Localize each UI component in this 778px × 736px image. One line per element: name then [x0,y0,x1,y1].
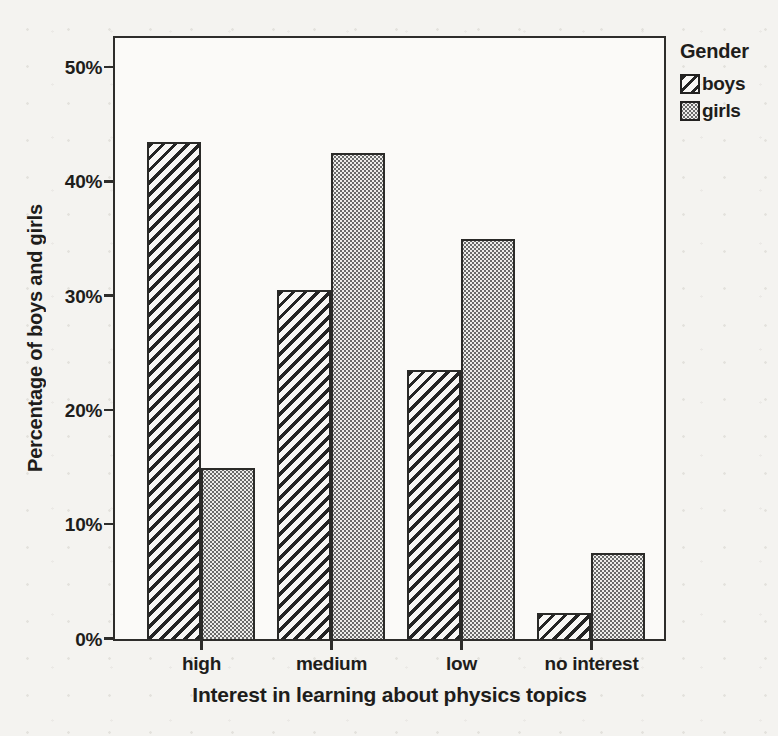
y-tick-mark-20% [104,409,113,412]
y-tick-label-10%: 10% [42,514,102,536]
y-tick-label-0%: 0% [42,629,102,651]
y-tick-label-50%: 50% [42,57,102,79]
y-tick-mark-40% [104,180,113,183]
bar-girls-medium [331,153,385,639]
x-tick-mark-high [200,641,203,650]
bar-girls-low [461,239,515,639]
y-tick-label-40%: 40% [42,171,102,193]
x-tick-label-low: low [392,653,532,675]
legend: Gender boysgirls [680,40,776,127]
legend-item-boys: boys [680,73,776,95]
y-tick-mark-10% [104,523,113,526]
x-tick-label-high: high [132,653,272,675]
x-tick-mark-medium [330,641,333,650]
x-tick-label-medium: medium [262,653,402,675]
diagonal-hatch-swatch-icon [680,74,700,94]
x-tick-mark-no-interest [590,641,593,650]
y-tick-mark-30% [104,294,113,297]
bar-boys-medium [277,290,331,639]
y-tick-mark-50% [104,66,113,69]
bar-boys-high [147,142,201,639]
y-tick-label-20%: 20% [42,400,102,422]
dot-grid-swatch-icon [680,101,700,121]
bar-boys-low [407,370,461,639]
y-axis-title: Percentage of boys and girls [24,36,50,641]
y-tick-mark-0% [104,637,113,640]
x-tick-mark-low [460,641,463,650]
bar-girls-high [201,468,255,639]
y-tick-label-30%: 30% [42,286,102,308]
legend-title: Gender [680,40,776,63]
legend-item-girls: girls [680,100,776,122]
legend-items: boysgirls [680,73,776,122]
legend-label-boys: boys [702,73,745,95]
x-axis-title: Interest in learning about physics topic… [113,683,666,707]
scanned-chart-page: { "chart_data": { "type": "bar", "title"… [0,0,778,736]
legend-label-girls: girls [702,100,741,122]
bar-girls-no-interest [591,553,645,639]
plot-area [113,36,666,641]
bar-boys-no-interest [537,613,591,639]
x-tick-label-no-interest: no interest [522,653,662,675]
